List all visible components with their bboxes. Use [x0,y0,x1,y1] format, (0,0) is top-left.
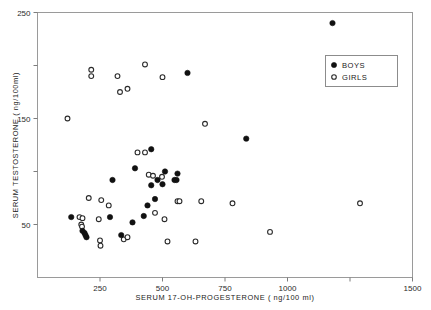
data-point-girl [115,74,120,79]
x-tick-label: 250 [93,284,107,293]
data-point-girl [160,174,165,179]
data-point-girl [151,173,156,178]
data-point-girl [98,238,103,243]
data-point-girl [125,86,130,91]
data-point-girl [86,196,91,201]
data-point-girl [96,217,101,222]
data-point-boy [149,183,154,188]
data-point-girl [89,74,94,79]
data-point-girl [199,199,204,204]
data-point-girl [143,62,148,67]
data-point-boy [155,177,160,182]
data-point-girl [153,210,158,215]
data-point-girl [99,198,104,203]
legend-label-boys: BOYS [342,61,365,70]
data-point-girl [268,230,273,235]
data-point-boy [244,136,249,141]
data-point-boy [145,203,150,208]
legend: BOYS GIRLS [326,56,398,87]
scatter-plot-figure: 50150250 25050075010001500 SERUM 17-OH-P… [0,0,431,310]
data-point-girl [358,201,363,206]
chart-svg: 50150250 25050075010001500 SERUM 17-OH-P… [0,0,431,310]
data-point-boy [152,196,157,201]
data-point-girl [230,201,235,206]
x-tick-label: 750 [218,284,232,293]
x-axis-ticks: 25050075010001500 [93,278,422,293]
data-point-boy [175,171,180,176]
data-point-girl [125,235,130,240]
data-point-boy [141,213,146,218]
y-tick-label: 250 [17,9,31,18]
x-axis-label: SERUM 17-OH-PROGESTERONE ( ng/100 ml) [135,293,314,302]
y-axis-label: SERUM TESTOSTERONE ( ng/100ml) [11,72,20,218]
data-point-boy [162,169,167,174]
data-point-boy [149,147,154,152]
data-point-girl [160,75,165,80]
legend-marker-girls-icon [332,75,337,80]
data-point-girl [98,243,103,248]
data-point-girl [89,67,94,72]
data-point-boy [107,214,112,219]
data-point-girl [106,203,111,208]
x-tick-label: 1000 [279,284,297,293]
data-point-boy [330,20,335,25]
data-point-girl [135,150,140,155]
legend-label-girls: GIRLS [342,73,367,82]
data-point-boy [174,177,179,182]
data-point-girl [177,199,182,204]
data-point-girl [165,239,170,244]
data-point-boy [185,70,190,75]
data-point-girl [118,90,123,95]
y-tick-label: 50 [22,221,31,230]
data-point-boy [130,220,135,225]
data-point-boy [160,182,165,187]
x-tick-label: 1500 [404,284,422,293]
y-axis-ticks: 50150250 [17,9,37,230]
data-point-girl [193,239,198,244]
data-point-girl [143,150,148,155]
legend-marker-boys-icon [331,62,336,67]
data-point-girl [203,121,208,126]
data-point-girl [162,217,167,222]
data-point-girl [80,216,85,221]
plot-frame [38,13,413,278]
data-point-girl [65,116,70,121]
data-point-boy [69,214,74,219]
data-points-girls [65,62,362,248]
data-point-boy [132,166,137,171]
x-tick-label: 500 [156,284,170,293]
data-point-boy [110,177,115,182]
data-point-boy [84,235,89,240]
data-point-boy [119,232,124,237]
